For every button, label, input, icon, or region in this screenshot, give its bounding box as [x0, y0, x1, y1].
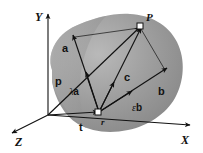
point-T-marker	[95, 109, 101, 115]
vector-plane-figure: Y X Z P r a b c p t λa εb	[0, 0, 203, 153]
z-axis-line	[12, 115, 48, 133]
figure-canvas	[0, 0, 203, 153]
point-P-marker	[137, 23, 143, 29]
plane-surface	[50, 14, 182, 132]
